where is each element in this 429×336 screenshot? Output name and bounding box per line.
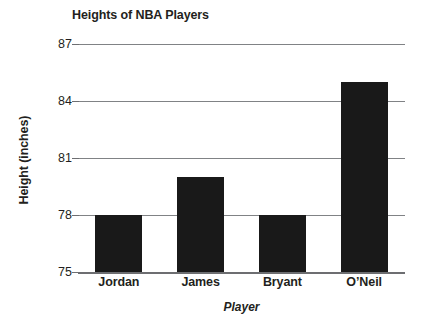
y-tick-mark-75 bbox=[72, 272, 79, 273]
y-tick-label-78: 78 bbox=[46, 209, 72, 222]
plot-area bbox=[78, 44, 405, 272]
x-axis-category-labels: JordanJamesBryantO’Neil bbox=[78, 275, 405, 295]
y-tick-mark-81 bbox=[72, 158, 79, 159]
y-axis-tick-labels: 7578818487 bbox=[46, 44, 72, 272]
gridline-75 bbox=[78, 272, 405, 274]
gridline-87 bbox=[78, 44, 405, 45]
y-tick-label-87: 87 bbox=[46, 38, 72, 51]
y-tick-label-84: 84 bbox=[46, 95, 72, 108]
y-tick-label-81: 81 bbox=[46, 152, 72, 165]
y-tick-mark-84 bbox=[72, 101, 79, 102]
bar-james[interactable] bbox=[177, 177, 224, 272]
bar-jordan[interactable] bbox=[95, 215, 142, 272]
x-tick-label-james: James bbox=[160, 275, 242, 289]
bar-bryant[interactable] bbox=[259, 215, 306, 272]
x-tick-label-jordan: Jordan bbox=[78, 275, 160, 289]
bar-oneil[interactable] bbox=[341, 82, 388, 272]
y-tick-mark-78 bbox=[72, 215, 79, 216]
x-axis-title: Player bbox=[78, 300, 405, 314]
bar-chart: Heights of NBA Players Height (inches) 7… bbox=[0, 0, 429, 336]
x-tick-label-oneil: O’Neil bbox=[323, 275, 405, 289]
y-tick-mark-87 bbox=[72, 44, 79, 45]
y-tick-label-75: 75 bbox=[46, 266, 72, 279]
chart-title: Heights of NBA Players bbox=[72, 8, 209, 22]
x-tick-label-bryant: Bryant bbox=[242, 275, 324, 289]
y-axis-title: Height (inches) bbox=[17, 95, 31, 225]
